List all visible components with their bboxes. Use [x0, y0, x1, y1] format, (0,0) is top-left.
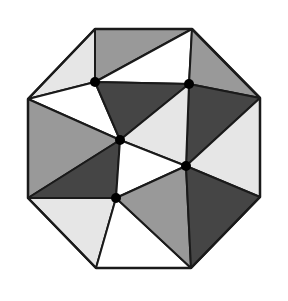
point-p2 [184, 79, 194, 89]
triangulated-octagon-figure [0, 0, 288, 301]
point-p1 [90, 77, 100, 87]
point-p4 [181, 161, 191, 171]
octagon-diagram [0, 0, 288, 301]
point-p3 [115, 135, 125, 145]
point-p5 [111, 193, 121, 203]
